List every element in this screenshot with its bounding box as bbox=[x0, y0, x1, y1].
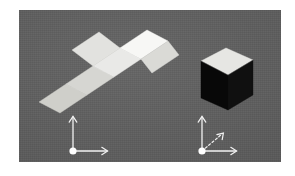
folded-cube-group bbox=[201, 48, 253, 110]
gizmo-left bbox=[69, 116, 107, 154]
cube-net-group bbox=[39, 30, 179, 113]
render-viewport bbox=[19, 10, 281, 162]
screenshot-root bbox=[0, 0, 295, 176]
gizmo-right-axis-y-up bbox=[198, 116, 206, 151]
gizmo-right-origin-dot bbox=[198, 147, 205, 154]
gizmo-left-axis-x-right bbox=[73, 147, 108, 154]
gizmo-left-origin-dot bbox=[69, 147, 76, 154]
gizmo-right-axis-z-diagonal bbox=[202, 133, 223, 151]
gizmo-right-axis-x-right bbox=[202, 147, 237, 154]
gizmo-right bbox=[198, 116, 236, 154]
gizmo-left-axis-y-up bbox=[69, 116, 77, 151]
scene-svg bbox=[19, 10, 281, 162]
